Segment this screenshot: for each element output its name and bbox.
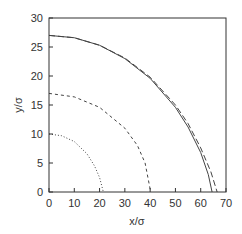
x-tick-label: 0 <box>46 197 52 209</box>
y-axis-ticks: 051015202530 <box>31 12 53 198</box>
curves <box>49 35 217 192</box>
chart: 010203040506070 051015202530 x/σ y/σ <box>0 0 242 234</box>
curve-dotted <box>49 134 103 192</box>
x-tick-label: 40 <box>144 197 156 209</box>
x-tick-label: 20 <box>93 197 105 209</box>
curve-short-dashed <box>49 93 151 192</box>
y-tick-label: 10 <box>31 128 43 140</box>
x-axis-label: x/σ <box>129 215 145 227</box>
x-tick-label: 50 <box>169 197 181 209</box>
x-tick-label: 60 <box>195 197 207 209</box>
x-tick-label: 30 <box>119 197 131 209</box>
y-tick-label: 0 <box>37 186 43 198</box>
x-axis-ticks: 010203040506070 <box>46 188 232 209</box>
y-tick-label: 5 <box>37 157 43 169</box>
plot-frame <box>49 18 226 192</box>
curve-solid <box>49 35 212 192</box>
y-tick-label: 30 <box>31 12 43 24</box>
x-tick-label: 70 <box>220 197 232 209</box>
y-axis-label: y/σ <box>12 97 24 113</box>
x-tick-label: 10 <box>68 197 80 209</box>
y-tick-label: 20 <box>31 70 43 82</box>
curve-long-dashed <box>49 35 217 192</box>
y-tick-label: 25 <box>31 41 43 53</box>
y-tick-label: 15 <box>31 99 43 111</box>
